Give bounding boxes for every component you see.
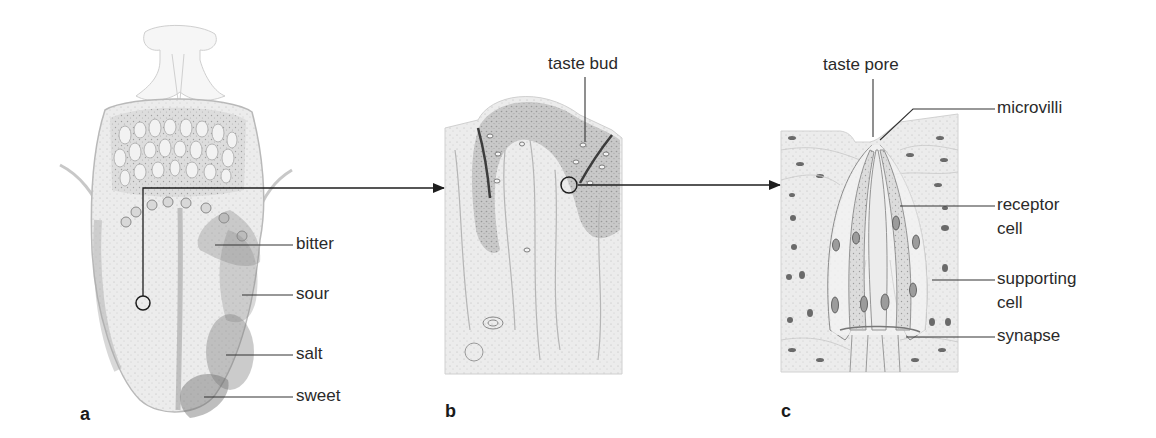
tongue-illustration <box>60 25 444 418</box>
label-bitter: bitter <box>296 234 334 254</box>
panel-letter-b: b <box>445 401 456 422</box>
label-taste-pore: taste pore <box>823 55 899 75</box>
label-synapse: synapse <box>997 326 1060 346</box>
panel-letter-a: a <box>80 404 90 425</box>
taste-bud-detail <box>781 79 995 372</box>
panel-letter-c: c <box>781 401 791 422</box>
label-receptor-cell-line2: cell <box>997 219 1023 239</box>
label-receptor-cell-line1: receptor <box>997 195 1059 215</box>
label-sweet: sweet <box>296 386 340 406</box>
papilla-cross-section <box>445 77 780 374</box>
label-sour: sour <box>296 284 329 304</box>
label-taste-bud: taste bud <box>548 54 618 74</box>
label-supporting-cell-line2: cell <box>997 293 1023 313</box>
label-supporting-cell-line1: supporting <box>997 269 1076 289</box>
label-microvilli: microvilli <box>997 98 1062 118</box>
label-salt: salt <box>296 344 322 364</box>
